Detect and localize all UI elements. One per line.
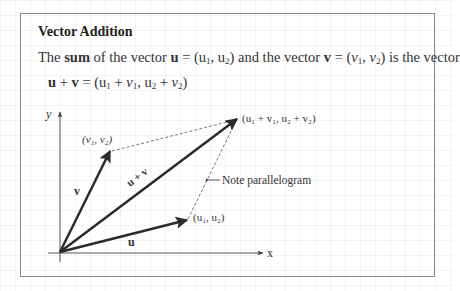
x-axis-label: x [267,246,273,260]
dashed-side-right [188,121,236,219]
vector-v [60,151,110,252]
vector-sum-label: u + v [124,165,150,189]
vector-u-label: u [128,235,135,249]
note-label: Note parallelogram [222,174,311,187]
point-sum-label: (u₁ + v₁, u₂ + v₂) [242,112,316,125]
point-u-label: (u₁, u₂) [193,211,225,224]
y-axis-label: y [45,107,52,121]
vector-v-label: v [74,184,80,198]
point-v-label: (v₁, v₂) [82,133,113,146]
vector-u [60,220,187,252]
